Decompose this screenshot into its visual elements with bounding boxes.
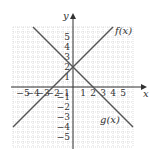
x-tick-label: 5 [120,88,126,98]
x-tick-label: 1 [80,88,86,98]
y-axis-label: y [62,10,69,21]
chart: x y −5−4−3−2−11234554321−1−2−3−4−5 f(x)g… [0,0,164,157]
y-axis-arrow-icon [70,13,76,19]
y-tick-label: 4 [64,42,70,52]
y-tick-label: −4 [57,122,71,132]
y-tick-label: −1 [57,92,70,102]
x-tick-label: 4 [110,88,116,98]
y-tick-label: −2 [57,102,70,112]
x-axis-label: x [143,88,149,99]
series-label-g: g(x) [100,114,120,125]
series-label-f: f(x) [114,25,132,36]
y-tick-label: −3 [57,112,71,122]
y-tick-label: −5 [57,132,71,142]
y-tick-label: 5 [64,32,70,42]
